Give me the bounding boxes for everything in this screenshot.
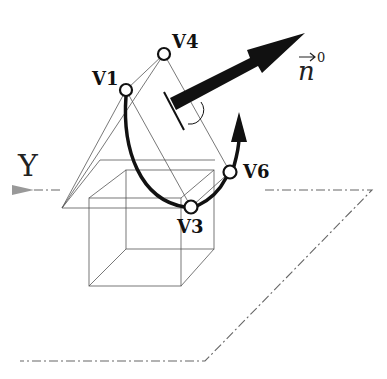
vertex-v4-label: V4 xyxy=(171,31,199,52)
svg-text:0: 0 xyxy=(317,50,325,65)
vertex-v6-label: V6 xyxy=(242,161,270,182)
y-axis-arrow xyxy=(12,185,63,195)
vertex-v3-label: V3 xyxy=(176,216,204,237)
tangent-arrow xyxy=(231,112,247,166)
normal-vector-label: n 0 xyxy=(298,50,325,86)
vertex-v1-label: V1 xyxy=(91,68,119,89)
y-axis-label: Y xyxy=(17,148,39,183)
svg-text:n: n xyxy=(298,56,315,86)
diagram-canvas: Y n 0 V1 V4 xyxy=(0,0,387,379)
vertex-v6 xyxy=(224,166,237,179)
vertex-v1 xyxy=(120,84,132,96)
vertex-v4 xyxy=(158,48,170,60)
vertex-v3 xyxy=(185,201,198,214)
